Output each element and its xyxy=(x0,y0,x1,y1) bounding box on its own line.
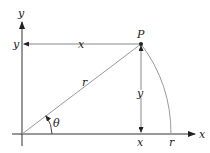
angle-arc xyxy=(46,116,52,134)
x-bottom-label: x xyxy=(137,136,144,149)
x-top-label: x xyxy=(78,38,85,51)
y-vertical-label: y xyxy=(136,87,144,100)
angle-label: θ xyxy=(53,117,60,130)
r-bottom-label: r xyxy=(169,136,175,149)
radius-arc xyxy=(141,44,171,134)
radius-line xyxy=(22,44,141,134)
y-left-label: y xyxy=(12,38,20,51)
x-axis-label: x xyxy=(199,128,206,141)
polar-diagram: y x P y x r y x r θ xyxy=(0,0,210,153)
point-p xyxy=(139,42,143,46)
point-label: P xyxy=(136,28,145,41)
y-axis-label: y xyxy=(17,7,25,20)
radius-mid-label: r xyxy=(82,76,88,89)
